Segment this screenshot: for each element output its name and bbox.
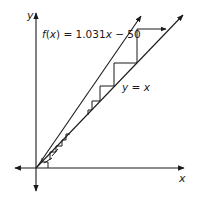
f-label-tail: − 50: [112, 28, 141, 40]
y-axis-label: y: [26, 9, 34, 22]
cobweb-diagram: y x f(x) = 1.031x − 50 y = x: [0, 0, 204, 204]
f-label-rest: ) = 1.031: [56, 28, 106, 40]
x-axis-label: x: [178, 172, 186, 185]
identity-label-x: x: [143, 81, 151, 93]
identity-label: y = x: [121, 81, 151, 93]
f-label: f(x) = 1.031x − 50: [42, 28, 141, 40]
identity-label-eq: =: [128, 81, 143, 93]
